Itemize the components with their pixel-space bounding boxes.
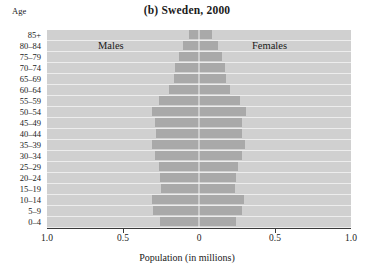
- pyramid-row: [47, 206, 351, 217]
- male-bar: [161, 184, 199, 193]
- age-tick-label: 20–24: [0, 173, 44, 184]
- age-tick-label: 70–74: [0, 63, 44, 74]
- x-tick-label: 0.5: [269, 233, 281, 243]
- x-tick-label: 1.0: [345, 233, 357, 243]
- female-bar: [199, 41, 218, 50]
- pyramid-row: [47, 118, 351, 129]
- male-bar: [174, 74, 199, 83]
- female-bar: [199, 85, 230, 94]
- males-legend-label: Males: [98, 40, 124, 51]
- age-tick-label: 45–49: [0, 118, 44, 129]
- male-bar: [155, 118, 199, 127]
- age-tick-label: 75–79: [0, 52, 44, 63]
- age-axis-caption: Age: [12, 6, 26, 16]
- age-tick-label: 30–34: [0, 151, 44, 162]
- age-tick-label: 80–84: [0, 41, 44, 52]
- female-bar: [199, 107, 246, 116]
- male-bar: [159, 162, 199, 171]
- female-bar: [199, 118, 242, 127]
- x-axis-title: Population (in millions): [0, 252, 374, 263]
- pyramid-row: [47, 74, 351, 85]
- female-bar: [199, 206, 242, 215]
- x-axis-line: [47, 228, 351, 229]
- pyramid-row: [47, 173, 351, 184]
- pyramid-row: [47, 140, 351, 151]
- male-bar: [152, 107, 199, 116]
- age-tick-label: 50–54: [0, 107, 44, 118]
- male-bar: [153, 206, 199, 215]
- female-bar: [199, 217, 236, 226]
- female-bar: [199, 74, 226, 83]
- age-tick-label: 40–44: [0, 129, 44, 140]
- plot-area: [47, 30, 351, 228]
- male-bar: [152, 140, 199, 149]
- population-pyramid-chart: (b) Sweden, 2000 Age 85+80–8475–7970–746…: [0, 0, 374, 278]
- female-bar: [199, 96, 240, 105]
- age-tick-label: 25–29: [0, 162, 44, 173]
- male-bar: [179, 52, 199, 61]
- x-tick-label: 0: [197, 233, 202, 243]
- female-bar: [199, 140, 245, 149]
- x-tick-label: 0.5: [117, 233, 129, 243]
- age-tick-label: 65–69: [0, 74, 44, 85]
- pyramid-row: [47, 96, 351, 107]
- chart-title: (b) Sweden, 2000: [0, 4, 374, 16]
- female-bar: [199, 63, 225, 72]
- age-tick-labels: 85+80–8475–7970–7465–6960–6455–5950–5445…: [0, 30, 44, 228]
- male-bar: [160, 173, 199, 182]
- pyramid-row: [47, 30, 351, 41]
- male-bar: [169, 85, 199, 94]
- pyramid-row: [47, 63, 351, 74]
- female-bar: [199, 129, 242, 138]
- female-bar: [199, 52, 222, 61]
- male-bar: [155, 151, 199, 160]
- pyramid-row: [47, 52, 351, 63]
- female-bar: [199, 162, 238, 171]
- age-tick-label: 35–39: [0, 140, 44, 151]
- age-tick-label: 55–59: [0, 96, 44, 107]
- female-bar: [199, 195, 244, 204]
- age-tick-label: 0–4: [0, 217, 44, 228]
- male-bar: [189, 30, 199, 39]
- female-bar: [199, 151, 242, 160]
- male-bar: [152, 195, 199, 204]
- pyramid-row: [47, 195, 351, 206]
- pyramid-row: [47, 41, 351, 52]
- female-bar: [199, 30, 212, 39]
- female-bar: [199, 184, 235, 193]
- pyramid-row: [47, 151, 351, 162]
- age-tick-label: 10–14: [0, 195, 44, 206]
- x-tick-label: 1.0: [41, 233, 53, 243]
- male-bar: [175, 63, 199, 72]
- age-tick-label: 15–19: [0, 184, 44, 195]
- age-tick-label: 85+: [0, 30, 44, 41]
- pyramid-row: [47, 129, 351, 140]
- age-tick-label: 5–9: [0, 206, 44, 217]
- pyramid-row: [47, 107, 351, 118]
- pyramid-row: [47, 85, 351, 96]
- male-bar: [159, 96, 199, 105]
- male-bar: [160, 217, 199, 226]
- pyramid-row: [47, 162, 351, 173]
- male-bar: [156, 129, 199, 138]
- female-bar: [199, 173, 236, 182]
- pyramid-row: [47, 217, 351, 228]
- pyramid-row: [47, 184, 351, 195]
- females-legend-label: Females: [252, 40, 287, 51]
- male-bar: [183, 41, 199, 50]
- age-tick-label: 60–64: [0, 85, 44, 96]
